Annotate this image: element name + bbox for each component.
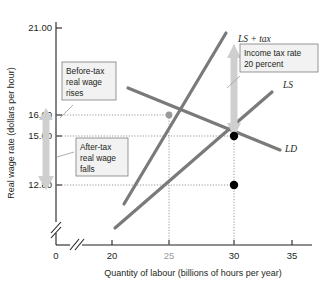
callout-after-tax: After-tax real wage falls — [76, 138, 128, 176]
curve-label-ls: LS — [282, 80, 293, 90]
callout-tax-rate-line1: Income tax rate — [244, 48, 302, 58]
labour-market-tax-chart: 21.00 16.00 15.00 12.80 0 20 25 30 35 Qu… — [0, 0, 326, 283]
callout-after-tax-line2: real wage — [80, 153, 116, 163]
curve-ls-plus-tax — [124, 33, 226, 204]
leader-before-tax — [60, 105, 73, 118]
curve-label-ld: LD — [284, 144, 297, 154]
x-tick-label-35: 35 — [287, 250, 298, 261]
x-tick-label-25: 25 — [164, 250, 175, 261]
y-axis-title: Real wage rate (dollars per hour) — [6, 67, 16, 199]
y-tick-label-2100: 21.00 — [28, 22, 52, 33]
leader-after-tax — [57, 152, 74, 157]
point-before-tax-equilibrium — [166, 112, 173, 119]
curve-ls — [115, 92, 272, 228]
chart-figure: 21.00 16.00 15.00 12.80 0 20 25 30 35 Qu… — [0, 0, 326, 283]
point-no-tax-equilibrium — [230, 132, 238, 140]
x-tick-label-20: 20 — [107, 250, 118, 261]
x-tick-label-30: 30 — [229, 250, 240, 261]
curve-label-ls-plus-tax: LS + tax — [237, 34, 272, 44]
x-axis-break-icon — [70, 239, 84, 250]
callout-tax-rate-line2: 20 percent — [244, 59, 284, 69]
callout-tax-rate: Income tax rate 20 percent — [240, 44, 318, 72]
point-after-tax-wage — [230, 181, 238, 189]
x-axis-title: Quantity of labour (billions of hours pe… — [104, 268, 282, 278]
callout-before-tax: Before-tax real wage rises — [62, 62, 116, 100]
callout-after-tax-line3: falls — [80, 164, 95, 174]
callout-before-tax-line1: Before-tax — [66, 66, 105, 76]
curve-ld — [128, 88, 280, 150]
callout-before-tax-line3: rises — [66, 88, 84, 98]
callout-after-tax-line1: After-tax — [80, 142, 112, 152]
x-tick-label-0: 0 — [53, 250, 58, 261]
callout-before-tax-line2: real wage — [66, 77, 102, 87]
tax-wedge-double-arrow-icon — [227, 44, 241, 137]
